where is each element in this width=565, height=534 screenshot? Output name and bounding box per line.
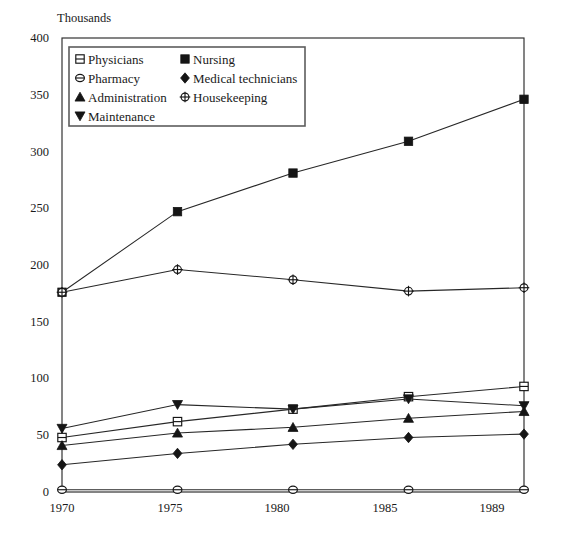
legend-item-label: Administration xyxy=(88,90,167,105)
data-point xyxy=(520,429,529,439)
line-chart-figure: Thousands 400 350 300 250 200 150 100 50… xyxy=(0,0,565,534)
series-medical-technicians xyxy=(58,429,529,470)
y-tick-350: 350 xyxy=(30,88,49,102)
y-tick-200: 200 xyxy=(30,258,49,272)
data-point xyxy=(173,207,181,215)
y-axis-unit-label: Thousands xyxy=(57,11,111,25)
data-point xyxy=(173,417,181,425)
legend-item-maintenance: Maintenance xyxy=(75,109,155,124)
square-open-bar-icon xyxy=(76,55,84,63)
data-point xyxy=(289,169,297,177)
data-point xyxy=(520,95,528,103)
y-tick-50: 50 xyxy=(37,428,50,442)
data-point xyxy=(404,432,413,442)
data-point xyxy=(404,137,412,145)
series-layer xyxy=(57,95,530,493)
legend-item-label: Pharmacy xyxy=(88,71,140,86)
data-point xyxy=(172,264,183,275)
legend-item-label: Physicians xyxy=(88,52,144,67)
x-tick-1989: 1989 xyxy=(480,501,505,515)
y-tick-100: 100 xyxy=(30,371,49,385)
legend-item-label: Maintenance xyxy=(88,109,155,124)
y-tick-0: 0 xyxy=(43,485,49,499)
data-point xyxy=(173,448,182,458)
data-point xyxy=(404,486,413,493)
x-tick-1980: 1980 xyxy=(265,501,290,515)
x-axis-tick-labels: 1970 1975 1980 1985 1989 xyxy=(50,501,505,515)
legend-item-label: Nursing xyxy=(193,52,235,67)
y-tick-150: 150 xyxy=(30,315,49,329)
data-point xyxy=(288,274,299,285)
chart-canvas: Thousands 400 350 300 250 200 150 100 50… xyxy=(0,0,565,534)
data-point xyxy=(173,486,182,493)
legend-item-medical-technicians: Medical technicians xyxy=(181,71,298,86)
series-housekeeping xyxy=(57,264,530,297)
x-tick-1975: 1975 xyxy=(158,501,183,515)
x-tick-1970: 1970 xyxy=(50,501,75,515)
chart-legend: PhysiciansNursingPharmacyMedical technic… xyxy=(69,47,305,126)
data-point xyxy=(403,286,414,297)
data-point xyxy=(58,460,67,470)
y-tick-250: 250 xyxy=(30,201,49,215)
data-point xyxy=(519,402,529,411)
y-axis-tick-labels: 400 350 300 250 200 150 100 50 0 xyxy=(30,31,49,499)
y-tick-300: 300 xyxy=(30,145,49,159)
square-filled-icon xyxy=(181,55,189,63)
legend-item-label: Housekeeping xyxy=(193,90,268,105)
legend-item-administration: Administration xyxy=(75,90,167,105)
x-tick-1985: 1985 xyxy=(373,501,398,515)
legend-item-housekeeping: Housekeeping xyxy=(180,90,268,105)
data-point xyxy=(289,486,298,493)
data-point xyxy=(289,439,298,449)
legend-item-label: Medical technicians xyxy=(193,71,297,86)
data-point xyxy=(58,486,67,493)
y-tick-400: 400 xyxy=(30,31,49,45)
data-point xyxy=(519,282,530,293)
data-point xyxy=(520,486,529,493)
circle-open-bar-icon xyxy=(76,74,85,81)
data-point xyxy=(520,382,528,390)
data-point xyxy=(57,424,67,433)
series-line xyxy=(62,99,524,292)
